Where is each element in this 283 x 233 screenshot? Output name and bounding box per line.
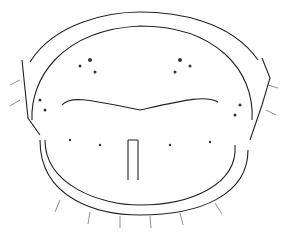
illustration: [0, 0, 283, 233]
sclerite-drawing: [0, 0, 283, 233]
outer-dome-outline: [30, 12, 258, 62]
